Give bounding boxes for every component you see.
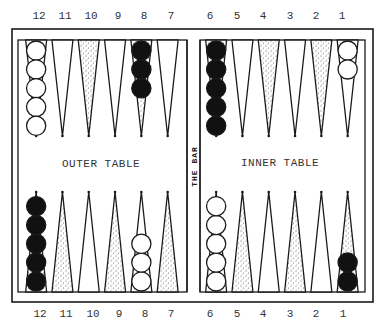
top-point-5-tip — [241, 135, 244, 138]
top-number-6: 6 — [200, 10, 220, 22]
bottom-point-10-tip — [87, 191, 90, 194]
white-checker — [27, 97, 46, 116]
black-checker — [338, 272, 357, 291]
bottom-point-2-tip — [320, 191, 323, 194]
top-number-5: 5 — [227, 10, 247, 22]
top-point-2-tip — [320, 135, 323, 138]
top-number-7: 7 — [161, 10, 181, 22]
white-checker — [207, 215, 226, 234]
top-point-9-tip — [114, 135, 117, 138]
black-checker — [338, 253, 357, 272]
white-checker — [27, 116, 46, 135]
top-point-11-tip — [61, 135, 64, 138]
bottom-number-11: 11 — [56, 308, 76, 320]
black-checker — [132, 79, 151, 98]
black-checker — [27, 197, 46, 216]
white-checker — [207, 234, 226, 253]
top-number-9: 9 — [108, 10, 128, 22]
top-number-1: 1 — [332, 10, 352, 22]
bottom-number-9: 9 — [109, 308, 129, 320]
white-checker — [207, 272, 226, 291]
black-checker — [132, 60, 151, 79]
white-checker — [27, 41, 46, 60]
bottom-point-1-tip — [346, 191, 349, 194]
bottom-number-1: 1 — [333, 308, 353, 320]
bottom-number-5: 5 — [227, 308, 247, 320]
bar-label: THE BAR — [190, 145, 199, 189]
top-number-11: 11 — [55, 10, 75, 22]
bottom-point-6-tip — [215, 191, 218, 194]
outer-table-label: OUTER TABLE — [62, 158, 140, 170]
top-point-1-tip — [346, 135, 349, 138]
top-point-3-tip — [294, 135, 297, 138]
white-checker — [132, 272, 151, 291]
bottom-number-4: 4 — [253, 308, 273, 320]
black-checker — [27, 272, 46, 291]
top-number-4: 4 — [253, 10, 273, 22]
white-checker — [132, 234, 151, 253]
black-checker — [207, 60, 226, 79]
bottom-point-8-tip — [140, 191, 143, 194]
black-checker — [27, 253, 46, 272]
top-number-12: 12 — [29, 10, 49, 22]
bottom-number-10: 10 — [83, 308, 103, 320]
bottom-point-11-tip — [61, 191, 64, 194]
bottom-number-8: 8 — [135, 308, 155, 320]
top-point-4-tip — [267, 135, 270, 138]
top-number-10: 10 — [81, 10, 101, 22]
white-checker — [207, 197, 226, 216]
black-checker — [207, 97, 226, 116]
white-checker — [132, 253, 151, 272]
top-point-7-tip — [166, 135, 169, 138]
black-checker — [207, 116, 226, 135]
bottom-point-7-tip — [166, 191, 169, 194]
bottom-point-4-tip — [267, 191, 270, 194]
inner-table-label: INNER TABLE — [241, 157, 319, 169]
bottom-point-9-tip — [114, 191, 117, 194]
black-checker — [27, 215, 46, 234]
white-checker — [27, 79, 46, 98]
white-checker — [338, 60, 357, 79]
top-number-3: 3 — [280, 10, 300, 22]
bottom-number-12: 12 — [30, 308, 50, 320]
bottom-point-5-tip — [241, 191, 244, 194]
bottom-point-3-tip — [294, 191, 297, 194]
black-checker — [207, 41, 226, 60]
bottom-point-12-tip — [35, 191, 38, 194]
black-checker — [207, 79, 226, 98]
bottom-number-6: 6 — [200, 308, 220, 320]
top-point-10-tip — [87, 135, 90, 138]
white-checker — [338, 41, 357, 60]
white-checker — [27, 60, 46, 79]
bottom-number-7: 7 — [161, 308, 181, 320]
bottom-number-2: 2 — [306, 308, 326, 320]
top-number-8: 8 — [134, 10, 154, 22]
bottom-number-3: 3 — [280, 308, 300, 320]
top-number-2: 2 — [306, 10, 326, 22]
black-checker — [27, 234, 46, 253]
top-point-8-tip — [140, 135, 143, 138]
white-checker — [207, 253, 226, 272]
black-checker — [132, 41, 151, 60]
